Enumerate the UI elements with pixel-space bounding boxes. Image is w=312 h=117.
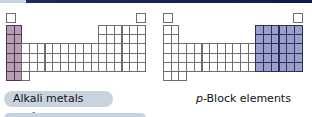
element-cell	[21, 71, 30, 81]
element-cell	[136, 13, 146, 23]
element-cell	[178, 71, 187, 81]
second-button[interactable]	[4, 113, 146, 117]
p-block-caption: p-Block elements	[196, 92, 291, 105]
element-cell	[6, 13, 16, 23]
element-cell	[293, 13, 303, 23]
element-cell	[294, 62, 303, 72]
top-bar	[0, 0, 312, 3]
element-cell	[163, 13, 173, 23]
alkali-metals-button[interactable]: Alkali metals (ns1)	[4, 91, 113, 107]
element-cell	[137, 62, 146, 72]
